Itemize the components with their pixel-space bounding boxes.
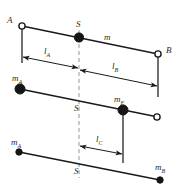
node-ma-middle-filled: [15, 84, 25, 94]
node-b-open-circle: [155, 51, 161, 57]
node-mb-bottom-filled: [157, 177, 163, 183]
node-me-middle-filled: [118, 105, 128, 115]
node-end-middle-open: [154, 114, 160, 120]
label-dimension-lc: lC: [96, 135, 103, 146]
label-mass-ma-bottom: mA: [11, 138, 21, 149]
label-mass-m: m: [104, 33, 111, 42]
label-point-b: B: [166, 46, 172, 55]
label-s-top: S: [76, 20, 81, 29]
label-mass-mb-bottom: mB: [155, 163, 165, 174]
node-s-top-filled: [74, 33, 83, 42]
bar-bottom-line: [19, 152, 160, 180]
dimension-arrow-lc: [80, 146, 122, 154]
label-dimension-la: lA: [44, 47, 50, 58]
label-point-a: A: [7, 16, 13, 25]
bar-middle-line: [20, 89, 158, 117]
label-mass-me-subscript: E: [121, 100, 125, 106]
label-dimension-lc-subscript: C: [99, 140, 103, 146]
equivalent-mass-diagram: A S m B lA lB mA mE S mA lC S mB: [0, 0, 179, 186]
label-dimension-lb-subscript: B: [115, 67, 119, 73]
label-mass-ma-middle: mA: [12, 74, 22, 85]
label-mass-me: mE: [114, 95, 124, 106]
dimension-arrow-la: [23, 57, 78, 68]
label-mass-mb-bottom-subscript: B: [162, 168, 166, 174]
node-ma-bottom-filled: [16, 149, 22, 155]
node-a-open-circle: [19, 23, 25, 29]
label-s-bottom: S: [74, 167, 79, 176]
label-mass-ma-middle-subscript: A: [19, 79, 23, 85]
label-mass-ma-bottom-subscript: A: [18, 143, 22, 149]
diagram-canvas: [0, 0, 179, 186]
dimension-arrow-lb: [80, 70, 157, 86]
label-dimension-la-subscript: A: [47, 52, 51, 58]
label-dimension-lb: lB: [112, 62, 118, 73]
label-s-middle: S: [74, 104, 79, 113]
bar-top-line: [22, 26, 158, 54]
